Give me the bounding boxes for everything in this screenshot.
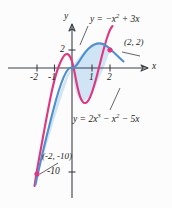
y-tick-label-neg10: -10	[47, 167, 60, 177]
x-tick-label-2: 2	[107, 73, 112, 83]
cubic-equation-mid: − x	[101, 114, 116, 124]
point-marker-2-2	[108, 48, 112, 52]
parabola-equation-label: y = −x2 + 3x	[90, 13, 139, 25]
y-axis-label: y	[64, 12, 68, 22]
x-tick-label-neg2: -2	[30, 73, 38, 83]
cubic-equation-pre: y = 2x	[73, 114, 97, 124]
x-tick-label-neg1: -1	[48, 73, 56, 83]
graph-figure: y x -2 -1 1 2 2 -10 y = −x2 + 3x y = 2x3…	[0, 0, 172, 208]
point-marker-neg2-neg10	[35, 172, 39, 176]
parabola-equation-pre: y = −x	[90, 14, 116, 24]
point-label-2-2: (2, 2)	[124, 38, 144, 47]
point-label-neg2-neg10: (-2, -10)	[42, 152, 72, 161]
cubic-equation-label: y = 2x3 − x2 − 5x	[73, 113, 139, 125]
plot-canvas	[0, 0, 172, 208]
x-tick-label-1: 1	[89, 73, 94, 83]
leader-point-2-2	[122, 52, 140, 56]
x-axis-label: x	[152, 62, 156, 72]
leader-cubic-equation	[110, 88, 120, 110]
y-tick-label-2: 2	[60, 45, 65, 55]
leader-parabola-equation	[80, 26, 88, 45]
parabola-equation-post: + 3x	[119, 14, 139, 24]
cubic-equation-post: − 5x	[119, 114, 139, 124]
